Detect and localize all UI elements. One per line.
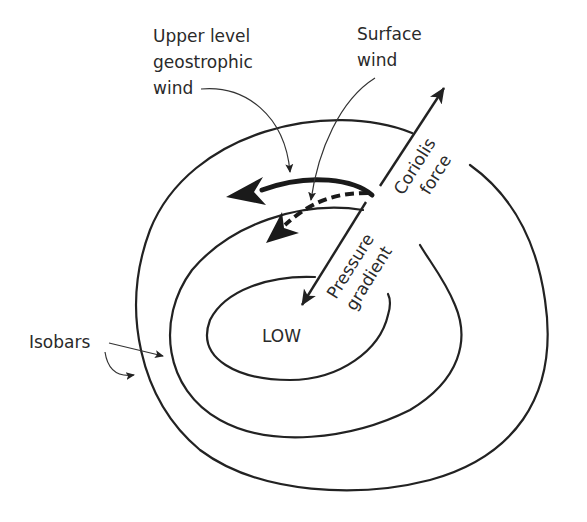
isobar-outer (136, 120, 547, 490)
surface-wind-label: Surface wind (357, 24, 427, 70)
low-label: LOW (262, 326, 301, 346)
isobars (136, 120, 547, 490)
surface-wind-arrow (266, 193, 368, 243)
isobars-label: Isobars (29, 332, 90, 352)
isobars-leader-outer (105, 352, 134, 375)
coriolis-force-label: Coriolis force (389, 130, 461, 210)
upper-wind-leader (201, 89, 290, 172)
upper-wind-arrow (226, 177, 372, 205)
isobar-middle (170, 208, 461, 437)
upper-wind-label: Upper level geostrophic wind (153, 26, 258, 98)
diagram-canvas: Upper level geostrophic wind Surface win… (0, 0, 587, 522)
pressure-gradient-label: Pressure gradient (322, 225, 399, 313)
low-pressure-diagram: Upper level geostrophic wind Surface win… (0, 0, 587, 522)
isobars-leader-middle (109, 343, 163, 356)
